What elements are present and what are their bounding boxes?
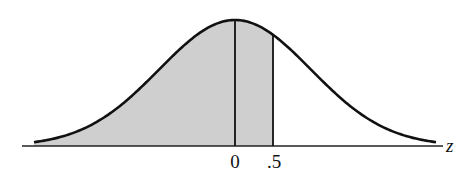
- tick-label-half: .5: [267, 151, 281, 172]
- tick-label-zero: 0: [230, 151, 240, 172]
- shaded-area: [34, 20, 273, 146]
- axis-label-z: z: [445, 135, 454, 156]
- normal-curve-diagram: 0 .5 z: [0, 0, 473, 177]
